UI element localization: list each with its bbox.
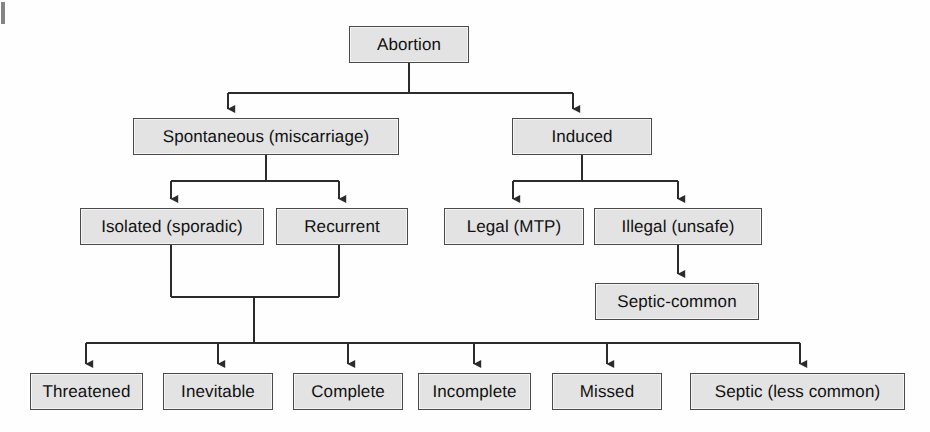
node-inevitable[interactable]: Inevitable <box>163 373 273 410</box>
node-septic-common[interactable]: Septic-common <box>595 283 759 320</box>
node-missed-label: Missed <box>580 383 634 401</box>
node-complete[interactable]: Complete <box>293 373 403 410</box>
node-complete-label: Complete <box>311 383 385 401</box>
node-septic-common-label: Septic-common <box>617 293 736 311</box>
node-abortion-label: Abortion <box>377 36 441 54</box>
node-recurrent-label: Recurrent <box>304 218 380 236</box>
node-incomplete[interactable]: Incomplete <box>418 373 531 410</box>
node-isolated-label: Isolated (sporadic) <box>101 218 243 236</box>
node-induced[interactable]: Induced <box>512 118 652 155</box>
node-incomplete-label: Incomplete <box>432 383 516 401</box>
node-illegal-unsafe-label: Illegal (unsafe) <box>621 218 734 236</box>
node-isolated[interactable]: Isolated (sporadic) <box>80 208 264 245</box>
node-threatened[interactable]: Threatened <box>30 373 143 410</box>
flowchart-canvas: Abortion Spontaneous (miscarriage) Induc… <box>0 0 930 432</box>
node-legal-mtp-label: Legal (MTP) <box>467 218 562 236</box>
node-septic-less-common[interactable]: Septic (less common) <box>690 373 905 410</box>
node-spontaneous-label: Spontaneous (miscarriage) <box>163 128 370 146</box>
node-induced-label: Induced <box>551 128 612 146</box>
node-missed[interactable]: Missed <box>552 373 662 410</box>
node-septic-less-common-label: Septic (less common) <box>715 383 880 401</box>
node-abortion[interactable]: Abortion <box>349 26 469 63</box>
node-inevitable-label: Inevitable <box>181 383 255 401</box>
node-legal-mtp[interactable]: Legal (MTP) <box>444 208 584 245</box>
node-threatened-label: Threatened <box>43 383 131 401</box>
node-illegal-unsafe[interactable]: Illegal (unsafe) <box>594 208 762 245</box>
node-spontaneous[interactable]: Spontaneous (miscarriage) <box>133 118 399 155</box>
node-recurrent[interactable]: Recurrent <box>276 208 408 245</box>
